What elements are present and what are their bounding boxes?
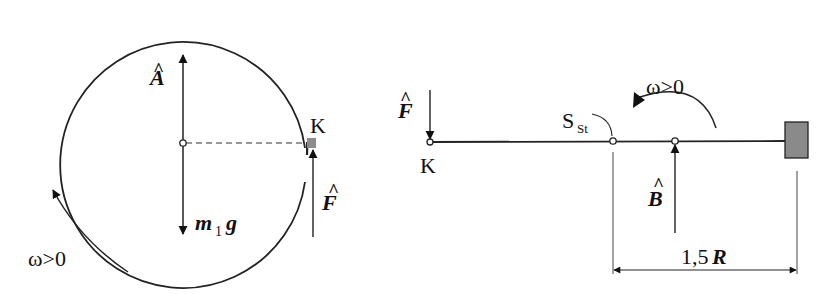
point-k-right [427, 139, 433, 145]
diagram-canvas: ^ A m 1 g K ^ F ω>0 [0, 0, 832, 294]
fixed-block [785, 122, 808, 158]
right-panel: ^ F K S St ω>0 ^ B 1,5 R [397, 74, 808, 274]
label-dimension-value: 1,5 [681, 244, 709, 269]
label-k-right: K [420, 153, 436, 178]
label-a: A [148, 65, 165, 90]
bearing-b-point [672, 138, 678, 144]
label-s: S [562, 108, 574, 133]
label-f-right: F [397, 98, 413, 123]
point-mass-k [307, 138, 316, 148]
center-of-mass-point [610, 138, 616, 144]
rod [430, 141, 785, 142]
omega-arrowhead-right [633, 92, 645, 108]
label-m1g-g: g [225, 210, 237, 235]
disc-center-pivot [180, 140, 186, 146]
label-m1g-sub: 1 [215, 224, 222, 239]
left-panel: ^ A m 1 g K ^ F ω>0 [28, 42, 339, 288]
label-omega-left: ω>0 [28, 246, 66, 271]
label-m1g-m: m [195, 210, 212, 235]
center-of-mass-leader [592, 114, 612, 136]
label-k-left: K [310, 113, 326, 138]
label-dimension-unit: R [711, 244, 727, 269]
label-f-left: F [321, 190, 337, 215]
label-b: B [647, 186, 663, 211]
label-omega-right: ω>0 [646, 74, 684, 99]
label-s-sub: St [577, 121, 588, 136]
